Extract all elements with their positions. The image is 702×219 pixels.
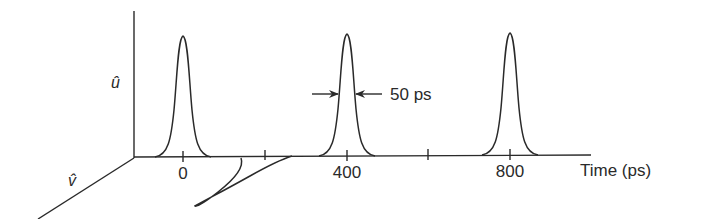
tick-label-800: 800 <box>496 162 524 181</box>
width-annotation-label: 50 ps <box>390 85 432 104</box>
time-axis <box>134 155 591 157</box>
pulse-at-800 <box>482 33 538 155</box>
pulse-v-plane <box>195 156 292 206</box>
u-axis-label: û <box>111 74 120 91</box>
time-axis-label: Time (ps) <box>580 161 651 180</box>
pulse-at-0 <box>155 36 211 157</box>
v-axis-label: v̂ <box>68 172 77 189</box>
tick-label-400: 400 <box>333 163 361 182</box>
pulse-train-diagram: û v̂ 50 ps 0 400 800 Time (ps) <box>0 0 702 219</box>
pulse-at-400 <box>319 34 375 156</box>
tick-label-0: 0 <box>178 164 187 183</box>
oblique-v-axis <box>38 158 134 219</box>
